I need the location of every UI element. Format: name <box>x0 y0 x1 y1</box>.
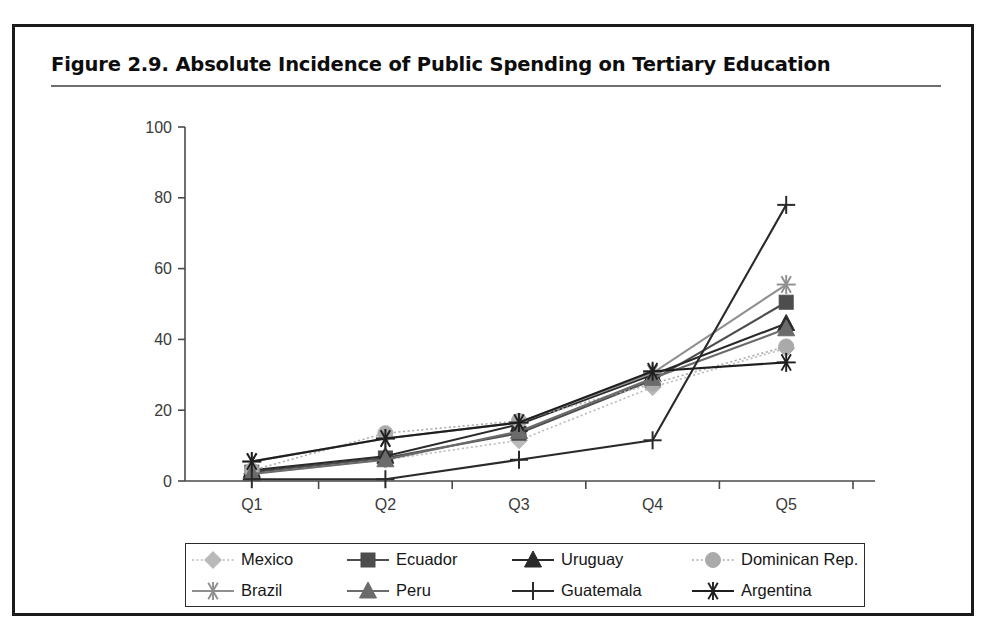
x-tick-label: Q4 <box>642 496 663 513</box>
legend-label: Argentina <box>741 581 812 600</box>
y-tick-label: 20 <box>154 402 172 419</box>
chart-legend: MexicoEcuadorUruguayDominican Rep.Brazil… <box>185 543 865 607</box>
legend-marker-plus-icon <box>510 582 556 600</box>
y-tick-label: 100 <box>145 119 172 136</box>
legend-item-mexico[interactable]: Mexico <box>190 550 345 569</box>
legend-label: Uruguay <box>561 550 623 569</box>
legend-label: Ecuador <box>396 550 457 569</box>
line-chart: 020406080100Q1Q2Q3Q4Q5 <box>15 27 977 619</box>
legend-marker-triangle-icon <box>345 582 391 600</box>
chart-plot-area: 020406080100Q1Q2Q3Q4Q5 <box>15 27 977 619</box>
legend-label: Dominican Rep. <box>741 550 858 569</box>
legend-marker-triangle-icon <box>510 551 556 569</box>
legend-item-uruguay[interactable]: Uruguay <box>510 550 690 569</box>
y-tick-label: 80 <box>154 189 172 206</box>
legend-grid: MexicoEcuadorUruguayDominican Rep.Brazil… <box>186 544 864 606</box>
legend-marker-diamond-icon <box>190 551 236 569</box>
legend-marker-square-icon <box>345 551 391 569</box>
x-tick-label: Q2 <box>375 496 396 513</box>
legend-label: Mexico <box>241 550 293 569</box>
legend-label: Guatemala <box>561 581 642 600</box>
legend-marker-circle-icon <box>690 551 736 569</box>
x-tick-label: Q5 <box>776 496 797 513</box>
y-tick-label: 60 <box>154 260 172 277</box>
figure-frame: Figure 2.9. Absolute Incidence of Public… <box>12 24 974 616</box>
legend-marker-star-icon <box>190 582 236 600</box>
legend-item-peru[interactable]: Peru <box>345 581 510 600</box>
legend-item-brazil[interactable]: Brazil <box>190 581 345 600</box>
legend-item-guatemala[interactable]: Guatemala <box>510 581 690 600</box>
legend-item-dominican-rep[interactable]: Dominican Rep. <box>690 550 870 569</box>
x-tick-label: Q1 <box>241 496 262 513</box>
y-tick-label: 40 <box>154 331 172 348</box>
legend-label: Brazil <box>241 581 282 600</box>
legend-label: Peru <box>396 581 431 600</box>
legend-item-argentina[interactable]: Argentina <box>690 581 870 600</box>
legend-item-ecuador[interactable]: Ecuador <box>345 550 510 569</box>
legend-marker-star-icon <box>690 582 736 600</box>
y-tick-label: 0 <box>163 473 172 490</box>
x-tick-label: Q3 <box>508 496 529 513</box>
